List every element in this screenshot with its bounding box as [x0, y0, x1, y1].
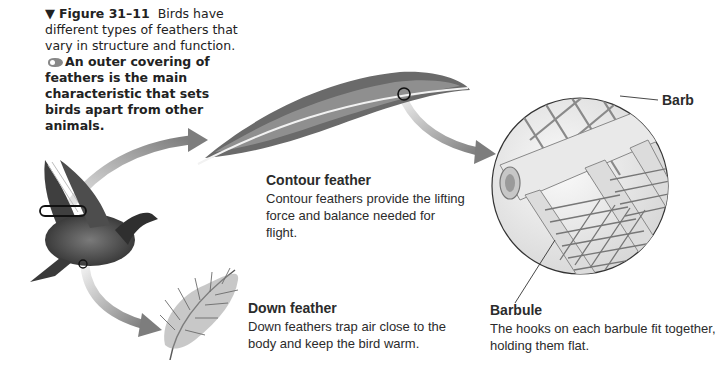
barb-leader-line	[620, 96, 658, 100]
contour-feather-title: Contour feather	[266, 172, 466, 189]
triangle-marker-icon: ▼	[45, 6, 55, 21]
contour-feather-description: Contour feathers provide the lifting for…	[266, 191, 465, 240]
figure-number: Figure 31–11	[59, 6, 150, 21]
barbule-title: Barbule	[490, 302, 717, 319]
contour-feather-label: Contour feather Contour feathers provide…	[266, 172, 466, 241]
down-feather-image	[160, 268, 238, 360]
figure-caption: ▼Figure 31–11 Birds have different types…	[45, 6, 245, 134]
down-feather-description: Down feathers trap air close to the body…	[248, 319, 446, 351]
arrow-to-detail-icon	[405, 102, 496, 164]
barbule-label: Barbule The hooks on each barbule fit to…	[490, 302, 717, 354]
down-feather-title: Down feather	[248, 300, 448, 317]
caption-key-concept: An outer covering of feathers is the mai…	[45, 54, 210, 133]
barb-detail-image	[492, 95, 690, 303]
key-concept-eye-icon	[48, 58, 63, 67]
arrow-to-down-icon	[85, 267, 162, 337]
down-feather-label: Down feather Down feathers trap air clos…	[248, 300, 448, 352]
barbule-description: The hooks on each barbule fit together, …	[490, 321, 716, 353]
barb-label: Barb	[662, 92, 694, 108]
